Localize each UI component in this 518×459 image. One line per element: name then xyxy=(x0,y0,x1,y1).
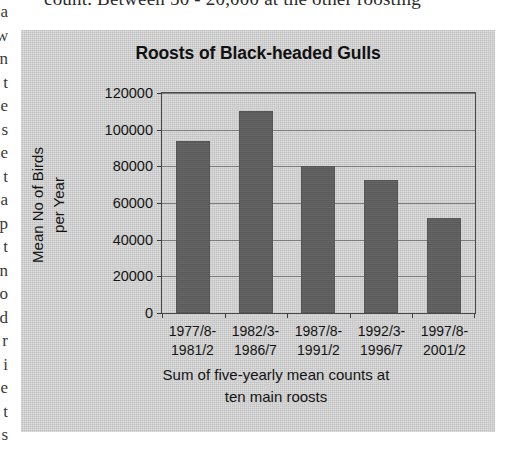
bar-1987-1991[interactable] xyxy=(301,166,335,313)
xtick-4 xyxy=(350,313,351,318)
ytick-label-0: 0 xyxy=(145,305,153,321)
bar-1997-2001[interactable] xyxy=(427,218,461,313)
ytick-label-100000: 100000 xyxy=(105,122,153,138)
ytick-label-60000: 60000 xyxy=(113,195,153,211)
x-axis-title: Sum of five-yearly mean counts at ten ma… xyxy=(111,364,441,408)
bar-1977-1981[interactable] xyxy=(176,141,210,313)
y-axis-title-line1: Mean No of Birds xyxy=(27,110,48,300)
bar-1982-1986[interactable] xyxy=(239,111,273,313)
xcat-5: 1997/8- 2001/2 xyxy=(413,322,476,360)
bar-slot-3 xyxy=(287,93,350,313)
xcat-3-line2: 1991/2 xyxy=(297,342,340,358)
page-body-text-clipped-top: count. Between 50 - 20,000 at the other … xyxy=(44,0,518,14)
x-axis-category-labels: 1977/8- 1981/2 1982/3- 1986/7 1987/8- 19… xyxy=(161,322,476,360)
xcat-5-line1: 1997/8- xyxy=(421,323,468,339)
xcat-4-line1: 1992/3- xyxy=(358,323,405,339)
xcat-4: 1992/3- 1996/7 xyxy=(350,322,413,360)
ytick-label-120000: 120000 xyxy=(105,85,153,101)
plot-area: 120000 100000 80000 60000 40000 20000 0 xyxy=(161,92,476,314)
page-body-text-clipped-left: awntesetaptnodriets xyxy=(0,0,8,459)
bar-slot-4 xyxy=(350,93,413,313)
xtick-3 xyxy=(287,313,288,318)
bar-slot-2 xyxy=(225,93,288,313)
ytick-label-20000: 20000 xyxy=(113,268,153,284)
xcat-1-line1: 1977/8- xyxy=(169,323,216,339)
xcat-2-line2: 1986/7 xyxy=(234,342,277,358)
bar-slot-5 xyxy=(412,93,475,313)
bar-series xyxy=(162,93,475,313)
bar-1992-1996[interactable] xyxy=(364,180,398,313)
xtick-5 xyxy=(412,313,413,318)
xcat-4-line2: 1996/7 xyxy=(360,342,403,358)
xtick-2 xyxy=(225,313,226,318)
xcat-2-line1: 1982/3- xyxy=(232,323,279,339)
xcat-3: 1987/8- 1991/2 xyxy=(287,322,350,360)
xcat-3-line1: 1987/8- xyxy=(295,323,342,339)
xtick-6 xyxy=(474,313,475,318)
ytick-label-40000: 40000 xyxy=(113,232,153,248)
x-axis-title-line2: ten main roosts xyxy=(225,388,328,405)
xcat-1-line2: 1981/2 xyxy=(171,342,214,358)
ytick-label-80000: 80000 xyxy=(113,158,153,174)
xcat-5-line2: 2001/2 xyxy=(423,342,466,358)
xtick-1 xyxy=(162,313,163,318)
chart-panel: Roosts of Black-headed Gulls 120000 1000… xyxy=(21,30,495,432)
xcat-1: 1977/8- 1981/2 xyxy=(161,322,224,360)
scanned-page: count. Between 50 - 20,000 at the other … xyxy=(0,0,518,459)
xcat-2: 1982/3- 1986/7 xyxy=(224,322,287,360)
x-axis-title-line1: Sum of five-yearly mean counts at xyxy=(163,366,390,383)
bar-slot-1 xyxy=(162,93,225,313)
y-axis-title-line2: per Year xyxy=(48,110,69,300)
y-axis-title: Mean No of Birds per Year xyxy=(27,110,71,300)
chart-title: Roosts of Black-headed Gulls xyxy=(21,43,495,64)
